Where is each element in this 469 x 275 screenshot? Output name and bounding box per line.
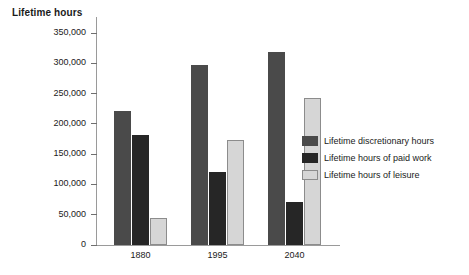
y-axis-tick-label: 300,000 <box>53 57 86 67</box>
legend-item: Lifetime discretionary hours <box>302 133 434 148</box>
bar <box>132 135 149 245</box>
y-axis-tick-label: 200,000 <box>53 118 86 128</box>
legend-item: Lifetime hours of paid work <box>302 150 434 165</box>
bar <box>150 218 167 245</box>
legend-swatch-icon <box>302 136 318 146</box>
bar <box>286 202 303 245</box>
legend-label: Lifetime hours of leisure <box>324 170 420 180</box>
y-axis-tick-label: 150,000 <box>53 148 86 158</box>
chart-title: Lifetime hours <box>12 7 82 18</box>
y-axis-tick-mark <box>91 123 97 124</box>
chart-legend: Lifetime discretionary hoursLifetime hou… <box>302 133 434 184</box>
x-axis-label: 1880 <box>111 250 171 260</box>
y-axis-tick-mark <box>91 184 97 185</box>
y-axis-tick-mark <box>91 93 97 94</box>
legend-swatch-icon <box>302 153 318 163</box>
legend-swatch-icon <box>302 170 318 180</box>
x-axis-label: 2040 <box>265 250 325 260</box>
bar <box>209 172 226 245</box>
y-axis-tick-mark <box>91 214 97 215</box>
x-axis-line <box>97 245 340 246</box>
bar <box>191 65 208 245</box>
legend-label: Lifetime hours of paid work <box>324 153 432 163</box>
y-axis-tick-mark <box>91 33 97 34</box>
y-axis-tick-mark <box>91 245 97 246</box>
bar-chart: Lifetime hours 050,000100,000150,000200,… <box>0 0 469 275</box>
y-axis-tick-mark <box>91 154 97 155</box>
y-axis-tick-label: 50,000 <box>58 209 86 219</box>
x-axis-label: 1995 <box>188 250 248 260</box>
legend-item: Lifetime hours of leisure <box>302 167 434 182</box>
bar <box>268 52 285 245</box>
bar <box>114 111 131 245</box>
y-axis-tick-label: 100,000 <box>53 178 86 188</box>
y-axis-tick-label: 0 <box>81 239 86 249</box>
y-axis-line <box>96 17 97 246</box>
legend-label: Lifetime discretionary hours <box>324 136 434 146</box>
y-axis-tick-label: 250,000 <box>53 88 86 98</box>
bar <box>227 140 244 245</box>
y-axis-tick-mark <box>91 63 97 64</box>
y-axis-tick-label: 350,000 <box>53 27 86 37</box>
